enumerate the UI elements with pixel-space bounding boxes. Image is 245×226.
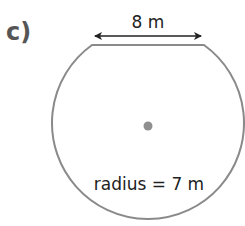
circle-segment-figure: c) 8 m radius = 7 m [0,0,245,226]
center-dot [144,122,153,131]
chord-length-label: 8 m [132,12,165,32]
radius-label: radius = 7 m [94,174,204,194]
diagram-canvas: 8 m radius = 7 m [0,0,245,226]
